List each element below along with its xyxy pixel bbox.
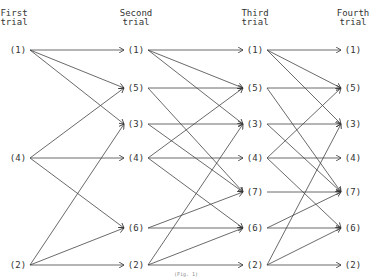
edge-4-to-5 [30, 88, 124, 158]
node-col2-5: (5) [128, 84, 144, 93]
node-col4-6: (6) [345, 224, 361, 233]
edge-5-to-7 [148, 88, 243, 192]
figure-caption: (Fig. 1) [174, 271, 198, 277]
edge-4-to-5 [267, 88, 341, 158]
edge-1-to-5 [30, 50, 124, 88]
edge-2-to-3 [267, 124, 341, 265]
node-col1-2: (2) [10, 261, 26, 270]
node-col4-3: (3) [345, 120, 361, 129]
node-col3-5: (5) [247, 84, 263, 93]
edge-5-to-7 [267, 88, 341, 192]
node-col4-1: (1) [345, 46, 361, 55]
node-col2-2: (2) [128, 261, 144, 270]
edge-1-to-5 [267, 50, 341, 88]
node-col1-4: (4) [10, 154, 26, 163]
edge-1-to-3 [30, 50, 124, 124]
edge-1-to-5 [148, 50, 243, 88]
transition-graph [0, 0, 371, 278]
node-col2-6: (6) [128, 224, 144, 233]
node-col2-3: (3) [128, 120, 144, 129]
edge-4-to-6 [148, 158, 243, 228]
edge-1-to-3 [267, 50, 341, 124]
node-col4-2: (2) [345, 261, 361, 270]
edge-2-to-6 [267, 228, 341, 265]
edge-1-to-3 [148, 50, 243, 124]
edge-2-to-3 [30, 124, 124, 265]
node-col2-1: (1) [128, 46, 144, 55]
edge-4-to-6 [267, 158, 341, 228]
edge-6-to-7 [148, 192, 243, 228]
node-col3-7: (7) [247, 188, 263, 197]
edge-2-to-6 [30, 228, 124, 265]
node-col4-5: (5) [345, 84, 361, 93]
node-col3-4: (4) [247, 154, 263, 163]
node-col4-7: (7) [345, 188, 361, 197]
node-col3-2: (2) [247, 261, 263, 270]
node-col1-1: (1) [10, 46, 26, 55]
edge-4-to-6 [30, 158, 124, 228]
node-col3-3: (3) [247, 120, 263, 129]
edge-2-to-6 [148, 228, 243, 265]
node-col2-4: (4) [128, 154, 144, 163]
node-col3-1: (1) [247, 46, 263, 55]
edge-2-to-3 [148, 124, 243, 265]
edge-4-to-5 [148, 88, 243, 158]
node-col4-4: (4) [345, 154, 361, 163]
node-col3-6: (6) [247, 224, 263, 233]
edge-6-to-7 [267, 192, 341, 228]
